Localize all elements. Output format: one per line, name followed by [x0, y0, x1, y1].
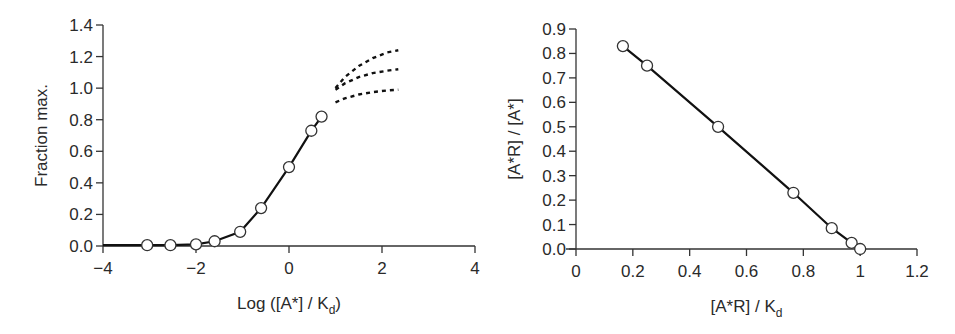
y-tick-label: 0.3	[542, 167, 566, 186]
y-tick-label: 1.0	[69, 79, 93, 98]
data-line	[623, 46, 860, 249]
x-tick-label: 4	[470, 259, 479, 278]
data-point	[165, 240, 176, 251]
y-tick-label: 1.4	[69, 16, 93, 35]
x-tick-label: 0	[284, 259, 293, 278]
x-axis-label: Log ([A*] / Kd)	[237, 294, 341, 317]
x-tick-label: 0	[571, 262, 580, 281]
y-tick-label: 0.1	[542, 216, 566, 235]
data-point	[256, 203, 267, 214]
data-point	[284, 162, 295, 173]
data-point	[642, 60, 653, 71]
x-tick-label: 0.2	[621, 262, 645, 281]
y-tick-label: 0.0	[542, 240, 566, 259]
y-tick-label: 0.0	[69, 237, 93, 256]
y-tick-label: 0.9	[542, 20, 566, 39]
data-point	[209, 236, 220, 247]
data-point	[855, 244, 866, 255]
data-point	[826, 223, 837, 234]
x-axis-label: [A*R] / Kd	[711, 297, 783, 320]
x-tick-label: 1	[855, 262, 864, 281]
x-tick-label: 2	[377, 259, 386, 278]
x-tick-label: 1.2	[905, 262, 929, 281]
y-tick-label: 0.7	[542, 69, 566, 88]
data-point	[617, 41, 628, 52]
y-tick-label: 0.5	[542, 118, 566, 137]
data-point	[306, 125, 317, 136]
data-line	[103, 117, 322, 246]
y-tick-label: 0.8	[69, 111, 93, 130]
data-point	[316, 111, 327, 122]
data-point	[191, 239, 202, 250]
y-axis-label: Fraction max.	[32, 84, 51, 187]
y-tick-label: 0.2	[69, 205, 93, 224]
y-tick-label: 0.6	[69, 142, 93, 161]
x-tick-label: −2	[186, 259, 205, 278]
data-point	[713, 121, 724, 132]
y-tick-label: 0.4	[542, 142, 566, 161]
x-tick-label: 0.8	[792, 262, 816, 281]
y-tick-label: 0.4	[69, 174, 93, 193]
scatchard-chart: 0.00.10.20.30.40.50.60.70.80.900.20.40.6…	[505, 20, 929, 320]
dose-response-chart: 0.00.20.40.60.81.01.21.4−4−2024Log ([A*]…	[32, 16, 480, 317]
dashed-curve	[336, 90, 399, 103]
y-tick-label: 0.6	[542, 93, 566, 112]
data-point	[788, 187, 799, 198]
y-tick-label: 0.8	[542, 44, 566, 63]
y-axis-label: [A*R] / [A*]	[505, 98, 524, 179]
x-tick-label: −4	[93, 259, 112, 278]
figure: 0.00.20.40.60.81.01.21.4−4−2024Log ([A*]…	[0, 0, 955, 334]
x-tick-label: 0.4	[678, 262, 702, 281]
data-point	[142, 240, 153, 251]
data-point	[235, 226, 246, 237]
x-tick-label: 0.6	[735, 262, 759, 281]
y-tick-label: 1.2	[69, 48, 93, 67]
dashed-curve	[336, 69, 399, 90]
y-tick-label: 0.2	[542, 191, 566, 210]
